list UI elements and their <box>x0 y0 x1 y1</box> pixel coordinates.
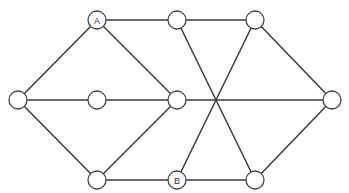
edge-t2-r <box>255 20 332 100</box>
node-t2 <box>246 11 264 29</box>
node-a: A <box>88 11 106 29</box>
node-circle <box>246 171 264 189</box>
edge-l-b1 <box>18 100 97 180</box>
node-circle <box>9 91 27 109</box>
node-m2 <box>168 91 186 109</box>
node-circle <box>246 11 264 29</box>
node-label: A <box>94 16 100 26</box>
node-circle <box>323 91 341 109</box>
node-circle <box>168 11 186 29</box>
node-circle <box>88 91 106 109</box>
graph-diagram: AB <box>0 0 349 193</box>
node-r <box>323 91 341 109</box>
edge-a-m2 <box>97 20 177 100</box>
node-b1 <box>88 171 106 189</box>
edge-l-a <box>18 20 97 100</box>
node-m1 <box>88 91 106 109</box>
node-b2 <box>246 171 264 189</box>
node-label: B <box>174 176 180 186</box>
edge-b2-r <box>255 100 332 180</box>
node-circle <box>88 171 106 189</box>
node-b: B <box>168 171 186 189</box>
node-l <box>9 91 27 109</box>
node-circle <box>168 91 186 109</box>
edge-b1-m2 <box>97 100 177 180</box>
node-t1 <box>168 11 186 29</box>
